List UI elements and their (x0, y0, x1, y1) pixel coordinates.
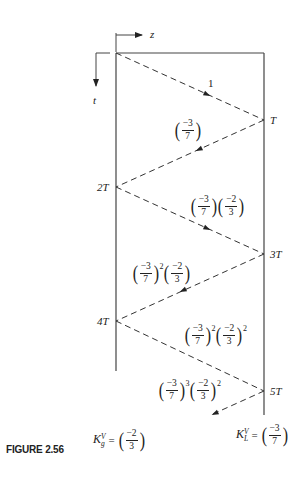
paren-open: ( (218, 196, 223, 216)
load-reflection-coefficient: KVL = ( −37 ) (236, 424, 288, 446)
wave-label-6: ( −37 ) 3 ( −23 ) 2 (158, 379, 221, 401)
fraction: −37 (198, 195, 210, 217)
paren-open: ( (185, 325, 190, 345)
arrow-icon (203, 91, 212, 99)
t-axis-label: t (93, 95, 96, 106)
fraction: −37 (140, 262, 152, 284)
arrow-icon (195, 146, 204, 154)
source-reflection-coefficient: KVg = ( −23 ) (93, 429, 145, 451)
paren-close: ) (185, 263, 190, 283)
k-symbol: KVL (236, 428, 249, 443)
paren-close: ) (205, 325, 210, 345)
exponent: 2 (217, 380, 221, 388)
wave-path-1 (116, 53, 264, 120)
paren-open: ( (190, 380, 195, 400)
paren-open: ( (133, 263, 138, 283)
paren-close: ) (153, 263, 158, 283)
wave-label-5: ( −37 ) 2 ( −23 ) 2 (184, 324, 247, 346)
fraction: −23 (223, 324, 235, 346)
paren-close: ) (239, 196, 244, 216)
paren-close: ) (282, 425, 287, 445)
paren-open: ( (164, 263, 169, 283)
paren-open: ( (118, 430, 123, 450)
arrow-icon (179, 287, 188, 295)
fraction: −37 (182, 119, 194, 141)
k-symbol: KVg (93, 433, 106, 448)
equals-sign: = (109, 435, 115, 446)
time-marker-5T: 5T (270, 386, 282, 397)
paren-open: ( (191, 196, 196, 216)
time-marker-T: T (270, 115, 276, 126)
paren-open: ( (261, 425, 266, 445)
time-marker-2T: 2T (97, 182, 109, 193)
wave-label-3: ( −37 ) ( −23 ) (190, 195, 245, 217)
fraction: −37 (166, 379, 178, 401)
paren-open: ( (216, 325, 221, 345)
paren-close: ) (139, 430, 144, 450)
fraction: −23 (171, 262, 183, 284)
t-axis (96, 53, 110, 86)
exponent: 2 (243, 325, 247, 333)
fraction: −37 (192, 324, 204, 346)
wave-label-2: ( −37 ) (174, 119, 201, 141)
z-axis (116, 33, 142, 52)
paren-close: ) (211, 380, 216, 400)
paren-open: ( (159, 380, 164, 400)
z-axis-label: z (150, 29, 154, 40)
bounce-diagram (0, 0, 303, 477)
paren-open: ( (175, 120, 180, 140)
fraction: −37 (269, 424, 281, 446)
figure-caption: FIGURE 2.56 (6, 444, 64, 455)
paren-close: ) (211, 196, 216, 216)
fraction: −23 (126, 429, 138, 451)
paren-close: ) (179, 380, 184, 400)
wave-label-1: 1 (208, 78, 214, 89)
time-marker-4T: 4T (97, 316, 109, 327)
arrow-icon (203, 225, 212, 233)
fraction: −23 (197, 379, 209, 401)
arrow-icon (211, 410, 220, 418)
equals-sign: = (252, 430, 258, 441)
wave-label-4: ( −37 ) 2 ( −23 ) (132, 262, 191, 284)
paren-close: ) (237, 325, 242, 345)
fraction: −23 (225, 195, 237, 217)
paren-close: ) (195, 120, 200, 140)
time-marker-3T: 3T (270, 249, 282, 260)
